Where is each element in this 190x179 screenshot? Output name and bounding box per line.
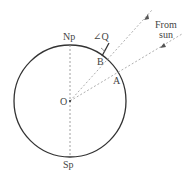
arrow-icon — [160, 43, 166, 48]
angle-arc — [101, 48, 105, 52]
label-a: A — [113, 75, 121, 86]
label-sp: Sp — [63, 159, 74, 170]
label-np: Np — [63, 31, 75, 42]
label-angle: ∠Q — [93, 31, 109, 42]
ray-ob — [70, 10, 152, 101]
arrow-icon — [144, 14, 149, 20]
ray-oa — [70, 34, 182, 101]
center-dot — [69, 100, 71, 102]
earth-diagram: Np Sp O B A ∠Q From sun — [0, 0, 190, 179]
label-b: B — [97, 56, 104, 67]
label-sun: sun — [159, 29, 173, 40]
label-o: O — [60, 96, 67, 107]
